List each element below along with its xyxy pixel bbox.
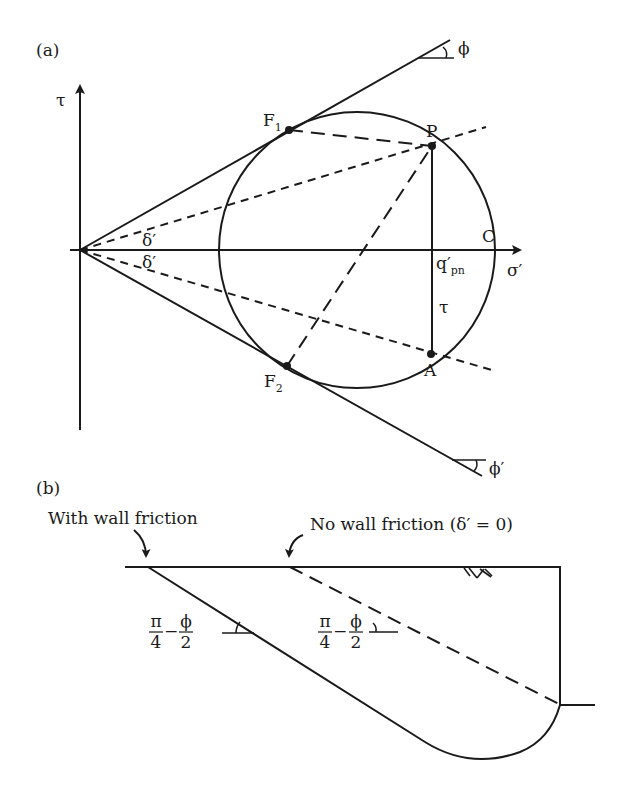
c-label: C xyxy=(482,226,495,246)
f1-label: F1 xyxy=(263,110,282,134)
phi-prime-angle-arc xyxy=(474,460,477,471)
no-friction-arrow xyxy=(289,535,303,556)
phi-prime-angle-label: ϕ′ xyxy=(489,458,505,478)
p-label: P xyxy=(426,121,437,141)
a-label: A xyxy=(423,360,437,380)
delta-lower-label: δ′ xyxy=(142,252,156,272)
panel-b-label: (b) xyxy=(36,478,60,498)
angle-fraction-label-1: π 4 − ϕ 2 xyxy=(149,611,193,652)
fraction-minus: − xyxy=(333,621,347,641)
mohr-circle-and-wall-diagram: (a) τ σ′ ϕ ϕ′ δ′ δ′ F1 P xyxy=(0,0,630,791)
fraction-num-phi: ϕ xyxy=(180,611,192,631)
panel-a-label: (a) xyxy=(36,40,59,60)
angle-arc-2 xyxy=(373,623,376,632)
fraction-num-pi: π xyxy=(319,611,330,631)
tau-axis-label: τ xyxy=(56,90,65,110)
point-f1 xyxy=(285,126,293,134)
sigma-axis-label: σ′ xyxy=(507,260,523,280)
with-friction-arrow xyxy=(134,530,146,556)
with-friction-label: With wall friction xyxy=(48,508,198,528)
fraction-num-pi: π xyxy=(150,611,161,631)
angle-fraction-label-2: π 4 − ϕ 2 xyxy=(318,611,363,652)
with-friction-failure-surface xyxy=(148,567,560,759)
point-f2 xyxy=(283,362,291,370)
phi-angle-label: ϕ xyxy=(458,38,470,58)
point-a xyxy=(427,350,435,358)
fraction-den-2: 2 xyxy=(181,632,192,652)
fraction-den-4: 4 xyxy=(151,632,162,652)
f1-p-dashed-line xyxy=(289,130,432,146)
fraction-den-4: 4 xyxy=(320,632,331,652)
panel-a: (a) τ σ′ ϕ ϕ′ δ′ δ′ F1 P xyxy=(36,38,523,478)
upper-failure-envelope xyxy=(80,40,450,250)
delta-upper-label: δ′ xyxy=(142,230,156,250)
fraction-den-2: 2 xyxy=(351,632,362,652)
f2-p-dashed-line xyxy=(287,146,432,366)
lower-failure-envelope xyxy=(80,250,482,476)
backfill-hatch-icon xyxy=(464,568,492,578)
tau-segment-label: τ xyxy=(439,297,448,317)
panel-b: (b) With wall friction No wall friction … xyxy=(36,478,595,759)
fraction-num-phi: ϕ xyxy=(350,611,362,631)
point-p xyxy=(428,142,436,150)
f2-label: F2 xyxy=(264,371,283,395)
fraction-minus: − xyxy=(164,621,178,641)
phi-angle-arc xyxy=(443,47,447,58)
no-friction-label: No wall friction (δ′ = 0) xyxy=(310,514,513,534)
q-pn-label: q′pn xyxy=(436,253,465,277)
